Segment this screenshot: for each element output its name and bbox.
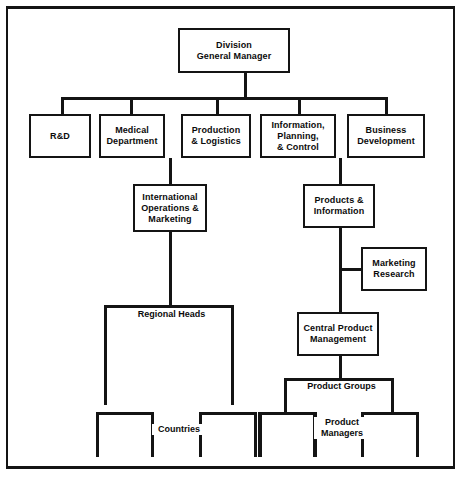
connector-to-marketing-research [339, 268, 363, 271]
connector-drop-medical [130, 97, 133, 114]
connector-international-to-regional [169, 232, 172, 305]
node-information-planning-control[interactable]: Information, Planning, & Control [260, 114, 336, 158]
connector-drop-rd [61, 97, 64, 114]
node-division-general-manager[interactable]: Division General Manager [178, 28, 290, 73]
node-international-operations-marketing-label: International Operations & Marketing [141, 192, 199, 225]
connector-drop-production [216, 97, 219, 114]
label-countries: Countries [152, 424, 206, 435]
node-central-product-management-label: Central Product Management [303, 323, 372, 345]
node-information-planning-control-label: Information, Planning, & Control [271, 120, 324, 153]
label-product-managers: Product Managers [314, 417, 370, 439]
org-chart-canvas: Division General Manager R&D Medical Dep… [0, 0, 461, 479]
bracket-country-2[interactable] [199, 412, 257, 457]
node-medical-department[interactable]: Medical Department [99, 114, 165, 158]
connector-row2-bus [61, 97, 388, 100]
bracket-regional-heads[interactable] [104, 305, 234, 405]
node-production-logistics[interactable]: Production & Logistics [181, 114, 251, 158]
node-medical-department-label: Medical Department [106, 125, 157, 147]
node-rd[interactable]: R&D [29, 114, 91, 158]
node-business-development[interactable]: Business Development [347, 114, 425, 158]
node-production-logistics-label: Production & Logistics [191, 125, 241, 147]
node-marketing-research-label: Marketing Research [372, 258, 415, 280]
node-central-product-management[interactable]: Central Product Management [297, 312, 379, 356]
node-rd-label: R&D [50, 131, 70, 142]
connector-dgm-stem [244, 73, 247, 97]
connector-drop-information [298, 97, 301, 114]
node-international-operations-marketing[interactable]: International Operations & Marketing [133, 184, 207, 232]
node-products-information[interactable]: Products & Information [303, 184, 375, 228]
bracket-product-managers-1[interactable] [259, 412, 317, 457]
connector-drop-business-development [385, 97, 388, 114]
connector-business-to-products [339, 158, 342, 184]
bracket-country-1[interactable] [96, 412, 154, 457]
connector-cpm-to-product-groups [339, 356, 342, 378]
node-division-general-manager-label: Division General Manager [197, 40, 272, 62]
connector-production-to-international [169, 158, 172, 184]
node-business-development-label: Business Development [357, 125, 415, 147]
label-regional-heads: Regional Heads [116, 309, 227, 320]
node-products-information-label: Products & Information [314, 195, 365, 217]
label-product-groups: Product Groups [292, 381, 391, 392]
node-marketing-research[interactable]: Marketing Research [361, 247, 427, 291]
